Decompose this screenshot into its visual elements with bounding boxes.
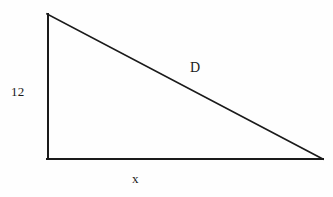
triangle-hypotenuse-line: [47, 14, 323, 159]
hypotenuse-label: D: [190, 61, 200, 75]
triangle-shape: [0, 0, 333, 197]
base-label: x: [132, 172, 139, 185]
right-triangle-figure: 12 D x: [0, 0, 333, 197]
vertical-leg-label: 12: [11, 85, 24, 98]
